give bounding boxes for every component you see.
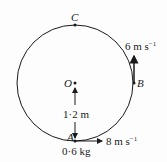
label-o: O (64, 77, 72, 89)
velocity-a-label: 8 m s−1 (106, 135, 138, 147)
label-a: A (66, 131, 74, 143)
point-o (74, 82, 77, 85)
label-c: C (71, 11, 79, 23)
radius-label: 1·2 m (63, 108, 89, 120)
label-b: B (137, 77, 144, 89)
circle-diagram: C O 1·2 m B 6 m s−1 A 8 m s−1 0·6 kg (0, 0, 167, 162)
point-c (74, 24, 77, 27)
velocity-b-label: 6 m s−1 (125, 40, 157, 52)
mass-label: 0·6 kg (62, 145, 91, 157)
